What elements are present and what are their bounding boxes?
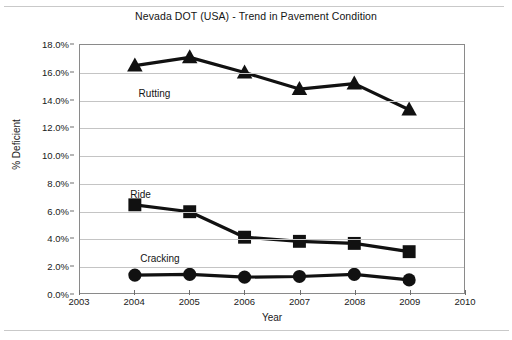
series-label-ride: Ride [130,189,151,200]
y-tick-label: 2.0% [47,261,69,272]
series-label-cracking: Cracking [140,253,179,264]
chart-figure: Nevada DOT (USA) - Trend in Pavement Con… [0,0,512,340]
x-tick-label: 2010 [454,296,475,307]
y-tick-mark [70,155,74,156]
gridline [80,128,464,129]
series-label-rutting: Rutting [139,87,171,98]
y-tick-label: 6.0% [47,205,69,216]
x-tick-mark [189,290,190,295]
x-tick-mark [465,290,466,295]
y-tick-label: 0.0% [47,289,69,300]
y-tick-label: 8.0% [47,177,69,188]
gridline [80,239,464,240]
x-tick-mark [410,290,411,295]
x-axis-title: Year [79,312,465,323]
gridline [80,101,464,102]
data-point-rutting [347,75,362,89]
data-point-cracking [183,268,196,281]
y-tick-label: 10.0% [42,150,69,161]
x-tick-mark [244,290,245,295]
x-tick-label: 2009 [399,296,420,307]
x-tick-label: 2008 [344,296,365,307]
y-axis-title: % Deficient [11,85,22,205]
y-tick-mark [70,294,74,295]
x-tick-label: 2005 [179,296,200,307]
data-point-ride [238,231,251,244]
y-tick-label: 12.0% [42,122,69,133]
x-tick-label: 2004 [124,296,145,307]
y-tick-mark [70,127,74,128]
gridline [80,73,464,74]
data-point-cracking [293,270,306,283]
page-frame-bottom-rule [4,330,509,331]
x-tick-mark [134,290,135,295]
data-point-ride [293,235,306,248]
y-tick-mark [70,210,74,211]
gridline [80,184,464,185]
gridline [80,212,464,213]
gridline [80,156,464,157]
y-tick-mark [70,44,74,45]
x-tick-mark [355,290,356,295]
plot-area: RuttingRideCracking [79,44,465,294]
y-tick-label: 4.0% [47,233,69,244]
series-layer [80,45,464,293]
data-point-cracking [348,268,361,281]
y-axis-tick-labels: 0.0%2.0%4.0%6.0%8.0%10.0%12.0%14.0%16.0%… [22,44,74,294]
page-frame-top-rule [4,6,504,7]
x-tick-label: 2007 [289,296,310,307]
y-tick-mark [70,238,74,239]
y-tick-label: 14.0% [42,94,69,105]
series-line-cracking [135,274,409,280]
y-tick-label: 18.0% [42,39,69,50]
y-tick-label: 16.0% [42,66,69,77]
y-tick-mark [70,182,74,183]
chart-title: Nevada DOT (USA) - Trend in Pavement Con… [0,10,512,22]
series-line-rutting [135,57,409,109]
data-point-ride [403,245,416,258]
x-tick-label: 2003 [68,296,89,307]
data-point-cracking [128,269,141,282]
data-point-cracking [403,273,416,286]
y-tick-mark [70,71,74,72]
data-point-cracking [238,271,251,284]
data-point-rutting [182,49,197,63]
y-tick-mark [70,266,74,267]
x-tick-label: 2006 [234,296,255,307]
data-point-ride [128,198,141,211]
gridline [80,267,464,268]
x-tick-mark [300,290,301,295]
x-tick-mark [79,290,80,295]
y-tick-mark [70,99,74,100]
